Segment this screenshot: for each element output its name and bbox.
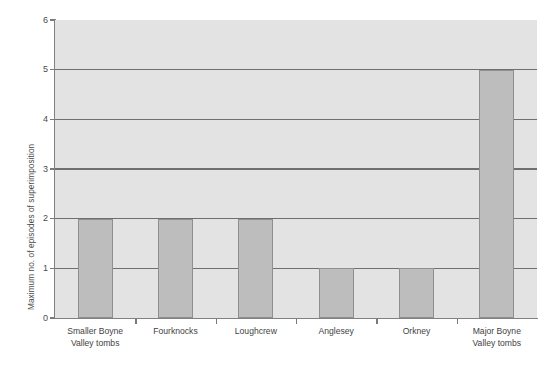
bar xyxy=(238,219,273,318)
x-axis-tick-label: Major BoyneValley tombs xyxy=(457,326,537,349)
y-axis-tick xyxy=(50,268,54,269)
x-axis-tick-label: Anglesey xyxy=(296,326,376,338)
y-axis-tick-label: 6 xyxy=(30,16,48,25)
y-axis-tick xyxy=(50,168,54,169)
x-axis-tick-label: Smaller BoyneValley tombs xyxy=(55,326,135,349)
x-axis-tick xyxy=(376,319,377,324)
x-axis-tick-label: Orkney xyxy=(376,326,456,338)
y-axis-tick-label: 1 xyxy=(30,264,48,273)
y-axis-tick-label: 5 xyxy=(30,65,48,74)
gridline xyxy=(55,218,537,219)
y-axis-tick-label: 0 xyxy=(30,314,48,323)
x-axis-tick xyxy=(216,319,217,324)
y-axis-tick xyxy=(50,19,54,20)
bar xyxy=(319,268,354,318)
x-axis-tick xyxy=(457,319,458,324)
bar xyxy=(399,268,434,318)
gridline xyxy=(55,69,537,70)
gridline xyxy=(55,168,537,169)
x-axis-tick xyxy=(135,319,136,324)
bar xyxy=(78,219,113,318)
bar-chart: Maximum no. of episodes of superimpositi… xyxy=(0,0,560,371)
bar xyxy=(158,219,193,318)
plot-area xyxy=(55,20,537,318)
y-axis-tick-label: 2 xyxy=(30,214,48,223)
gridline xyxy=(55,119,537,120)
y-axis-tick xyxy=(50,69,54,70)
bar xyxy=(479,70,514,318)
y-axis-tick xyxy=(50,317,54,318)
x-axis-tick-label: Loughcrew xyxy=(216,326,296,338)
x-axis-tick-label: Fourknocks xyxy=(135,326,215,338)
y-axis-tick-label: 3 xyxy=(30,165,48,174)
y-axis-tick xyxy=(50,119,54,120)
gridline xyxy=(55,268,537,269)
y-axis-tick xyxy=(50,218,54,219)
x-axis-tick xyxy=(296,319,297,324)
y-axis-tick-label: 4 xyxy=(30,115,48,124)
